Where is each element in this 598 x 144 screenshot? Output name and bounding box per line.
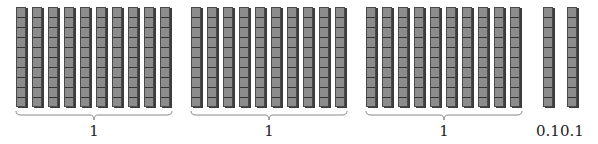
tenth-rod xyxy=(414,7,424,107)
tenth-rod xyxy=(303,7,313,107)
tenth-rod xyxy=(462,7,472,107)
tenth-rod xyxy=(430,7,440,107)
tenth-rod xyxy=(48,7,58,107)
group-label: 1 xyxy=(259,122,279,140)
group-label: 1 xyxy=(434,122,454,140)
group-label: 1 xyxy=(84,122,104,140)
brace-icon xyxy=(364,110,524,122)
single-tenth-rod xyxy=(567,7,577,107)
tenth-rod xyxy=(223,7,233,107)
single-label: 0.1 xyxy=(535,122,561,140)
tenth-rod xyxy=(366,7,376,107)
brace-icon xyxy=(14,110,174,122)
tenth-rod xyxy=(478,7,488,107)
tenth-rod xyxy=(510,7,520,107)
single-label: 0.1 xyxy=(559,122,585,140)
tenth-rod xyxy=(191,7,201,107)
tenth-rod xyxy=(64,7,74,107)
tenth-rod xyxy=(335,7,345,107)
tenth-rod xyxy=(255,7,265,107)
tenth-rod xyxy=(382,7,392,107)
tenth-rod xyxy=(16,7,26,107)
tenth-rod xyxy=(207,7,217,107)
tenth-rod xyxy=(80,7,90,107)
tenth-rod xyxy=(239,7,249,107)
tenth-rod xyxy=(398,7,408,107)
tenth-rod xyxy=(160,7,170,107)
tenth-rod xyxy=(287,7,297,107)
brace-icon xyxy=(189,110,349,122)
tenth-rod xyxy=(96,7,106,107)
single-tenth-rod xyxy=(543,7,553,107)
tenth-rod xyxy=(112,7,122,107)
tenth-rod xyxy=(494,7,504,107)
tenth-rod xyxy=(144,7,154,107)
tenth-rod xyxy=(32,7,42,107)
tenth-rod xyxy=(128,7,138,107)
tenth-rod xyxy=(319,7,329,107)
tenth-rod xyxy=(271,7,281,107)
tenth-rod xyxy=(446,7,456,107)
